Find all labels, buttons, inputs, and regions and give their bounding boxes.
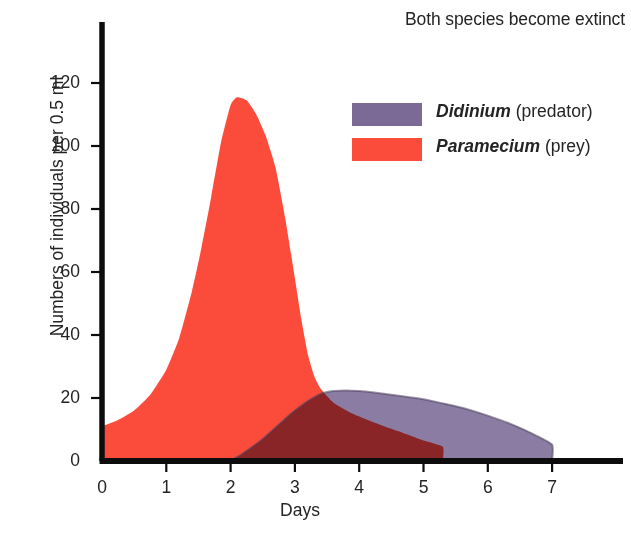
y-axis-title: Numbers of individuals per 0.5 ml xyxy=(47,57,68,357)
x-tick-label: 4 xyxy=(347,479,371,497)
x-tick-label: 5 xyxy=(412,479,436,497)
x-tick-label: 2 xyxy=(219,479,243,497)
x-tick-label: 7 xyxy=(540,479,564,497)
y-tick-label: 0 xyxy=(36,452,80,470)
x-tick-label: 6 xyxy=(476,479,500,497)
chart-figure: Both species become extinct Didinium (pr… xyxy=(0,0,631,548)
plot-area xyxy=(0,0,631,548)
x-tick-label: 1 xyxy=(154,479,178,497)
x-tick-label: 3 xyxy=(283,479,307,497)
x-tick-label: 0 xyxy=(90,479,114,497)
series-areas xyxy=(102,97,553,461)
y-tick-label: 20 xyxy=(36,389,80,407)
x-axis-title: Days xyxy=(240,500,360,521)
